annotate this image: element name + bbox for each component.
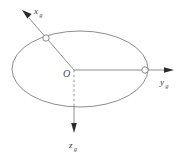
origin-label: O	[63, 68, 70, 79]
x-axis-ellipse-intersection-marker	[43, 35, 49, 41]
y-axis-label: y	[159, 77, 164, 87]
x-axis-line	[29, 18, 74, 70]
x-axis-label: x	[33, 6, 38, 16]
figure-canvas: O x g y g z g	[0, 0, 180, 153]
x-axis-arrowhead	[22, 10, 32, 18]
coordinate-frame-figure: O x g y g z g	[0, 0, 180, 153]
y-axis-label-subscript: g	[166, 83, 169, 89]
z-axis-arrowhead	[71, 123, 77, 133]
y-axis-ellipse-intersection-marker	[142, 67, 148, 73]
x-axis-label-subscript: g	[40, 12, 43, 18]
y-axis-arrowhead	[164, 67, 174, 73]
horizontal-plane-ellipse	[12, 31, 148, 107]
z-axis-label: z	[68, 140, 73, 150]
z-axis-label-subscript: g	[74, 146, 77, 152]
